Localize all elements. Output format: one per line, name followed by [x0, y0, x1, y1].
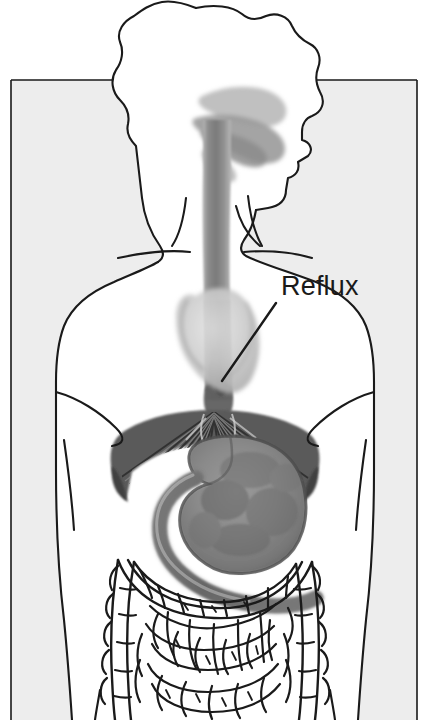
stomach — [180, 436, 306, 574]
anatomy-diagram: Reflux — [0, 0, 429, 720]
reflux-label: Reflux — [281, 271, 359, 301]
reflux-illustration: Reflux — [0, 0, 429, 720]
